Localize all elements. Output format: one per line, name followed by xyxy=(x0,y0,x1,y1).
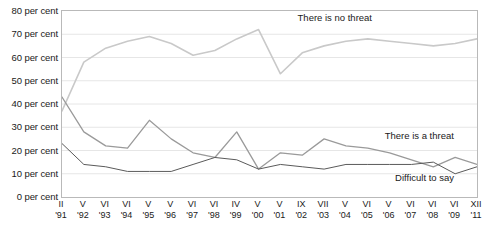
x-tick-year: '98 xyxy=(208,210,220,221)
x-tick-month: VI xyxy=(426,199,438,210)
x-tick-month: V xyxy=(142,199,154,210)
x-tick-month: VI xyxy=(186,199,198,210)
x-tick-month: VI xyxy=(405,199,417,210)
x-axis-tick-label: IV'99 xyxy=(230,199,242,221)
x-axis-tick-label: V'96 xyxy=(164,199,176,221)
x-tick-month: XII xyxy=(470,199,481,210)
x-tick-month: V xyxy=(77,199,89,210)
y-axis-tick-label: 40 per cent xyxy=(12,98,58,109)
x-tick-month: VI xyxy=(99,199,111,210)
x-axis-tick-label: IX'02 xyxy=(295,199,307,221)
x-tick-month: V xyxy=(339,199,351,210)
x-tick-year: '94 xyxy=(121,210,133,221)
x-tick-year: '02 xyxy=(295,210,307,221)
x-tick-year: '91 xyxy=(55,210,67,221)
x-tick-month: VI xyxy=(448,199,460,210)
y-axis-tick-label: 50 per cent xyxy=(12,74,58,85)
plot-svg xyxy=(62,11,477,197)
x-tick-year: '06 xyxy=(383,210,395,221)
x-axis-tick-label: VI'09 xyxy=(448,199,460,221)
x-axis-tick-label: V'00 xyxy=(252,199,264,221)
x-tick-year: '95 xyxy=(142,210,154,221)
x-tick-year: '99 xyxy=(230,210,242,221)
x-tick-month: VI xyxy=(361,199,373,210)
x-tick-year: '05 xyxy=(361,210,373,221)
y-axis-tick-label: 60 per cent xyxy=(12,51,58,62)
y-axis-tick-label: 30 per cent xyxy=(12,121,58,132)
x-tick-month: VI xyxy=(208,199,220,210)
plot-area xyxy=(61,10,478,198)
series-annotation: There is no threat xyxy=(298,12,372,23)
x-tick-month: V xyxy=(164,199,176,210)
x-tick-year: '08 xyxy=(426,210,438,221)
x-tick-year: '07 xyxy=(405,210,417,221)
x-tick-year: '00 xyxy=(252,210,264,221)
series-line xyxy=(62,30,477,111)
x-axis-tick-label: VII'03 xyxy=(317,199,329,221)
x-axis-tick-label: VI'94 xyxy=(121,199,133,221)
x-tick-year: '97 xyxy=(186,210,198,221)
x-axis-tick-label: VI'05 xyxy=(361,199,373,221)
x-tick-year: '03 xyxy=(317,210,329,221)
x-axis-tick-label: V'04 xyxy=(339,199,351,221)
x-axis-tick-label: VI'93 xyxy=(99,199,111,221)
x-axis-tick-label: V'01 xyxy=(274,199,286,221)
y-axis-tick-label: 70 per cent xyxy=(12,28,58,39)
y-axis-tick-label: 10 per cent xyxy=(12,167,58,178)
x-tick-year: '01 xyxy=(274,210,286,221)
x-tick-month: II xyxy=(55,199,67,210)
x-axis-tick-label: VI'97 xyxy=(186,199,198,221)
x-tick-month: V xyxy=(383,199,395,210)
y-axis-tick-label: 80 per cent xyxy=(12,5,58,16)
y-axis-tick-label: 20 per cent xyxy=(12,144,58,155)
series-annotation: Difficult to say xyxy=(395,172,454,183)
x-axis-tick-label: V'06 xyxy=(383,199,395,221)
x-tick-year: '93 xyxy=(99,210,111,221)
x-axis-tick-label: VI'07 xyxy=(405,199,417,221)
x-tick-month: VII xyxy=(317,199,329,210)
x-axis-tick-label: XII'11 xyxy=(470,199,481,221)
x-tick-month: IX xyxy=(295,199,307,210)
x-axis-tick-label: VI'08 xyxy=(426,199,438,221)
x-axis-tick-label: V'95 xyxy=(142,199,154,221)
x-tick-month: VI xyxy=(121,199,133,210)
x-axis-tick-label: VI'98 xyxy=(208,199,220,221)
x-tick-month: V xyxy=(252,199,264,210)
x-axis-tick-label: V'92 xyxy=(77,199,89,221)
x-tick-year: '92 xyxy=(77,210,89,221)
x-tick-year: '96 xyxy=(164,210,176,221)
x-tick-year: '04 xyxy=(339,210,351,221)
x-axis-tick-label: II'91 xyxy=(55,199,67,221)
x-tick-month: V xyxy=(274,199,286,210)
x-tick-year: '11 xyxy=(470,210,481,221)
x-tick-month: IV xyxy=(230,199,242,210)
series-annotation: There is a threat xyxy=(385,130,454,141)
x-axis-labels: II'91V'92VI'93VI'94V'95V'96VI'97VI'98IV'… xyxy=(0,199,484,235)
x-tick-year: '09 xyxy=(448,210,460,221)
line-chart: 80 per cent70 per cent60 per cent50 per … xyxy=(0,0,484,235)
